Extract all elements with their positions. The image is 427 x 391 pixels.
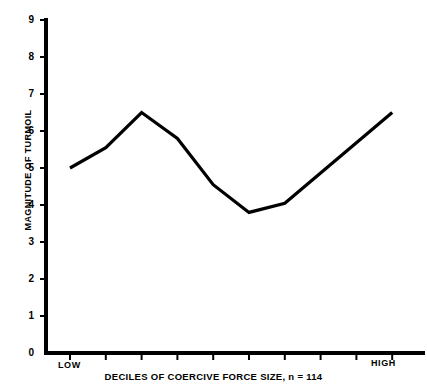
x-axis-high-label: HIGH (371, 358, 396, 368)
chart-figure: MAGNITUDE OF TURMOIL 0123456789 LOW HIGH… (0, 0, 427, 391)
x-axis-low-label: LOW (58, 360, 81, 370)
data-series-line (70, 113, 392, 213)
x-axis-title: DECILES OF COERCIVE FORCE SIZE, n = 114 (0, 371, 427, 382)
plot-area (0, 0, 427, 391)
